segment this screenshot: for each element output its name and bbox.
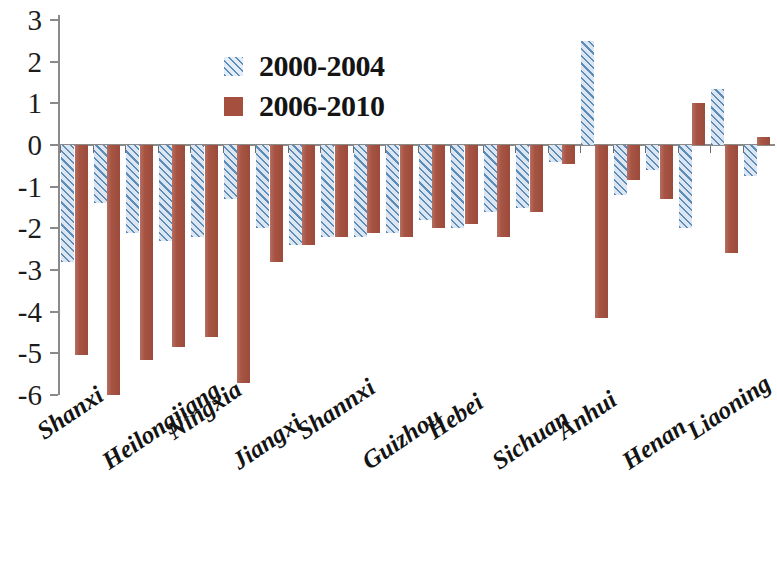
x-axis-tick-mark [255,146,256,153]
x-axis-tick-mark [158,146,159,153]
bar-group [580,15,613,395]
x-axis-tick-mark [320,146,321,153]
bar-group [548,15,581,395]
x-axis-tick-mark [613,146,614,153]
y-axis-tick-label: -4 [2,297,42,326]
y-axis-tick-mark [50,352,58,354]
x-axis-tick-mark [483,146,484,153]
bar-2000-2004-19[interactable] [679,145,692,228]
bar-2000-2004-2[interactable] [126,145,139,233]
legend-item-2006-2010: 2006-2010 [224,86,385,126]
y-axis-tick-mark [50,61,58,63]
y-axis-tick-labels: 3210-1-2-3-4-5-6 [0,0,42,574]
y-axis-tick-label: -5 [2,339,42,368]
legend-label-2006-2010: 2006-2010 [259,89,385,123]
y-axis-tick-label: -6 [2,381,42,410]
bar-group [93,15,126,395]
chart-legend: 2000-2004 2006-2010 [224,46,385,126]
x-axis-tick-mark [125,146,126,153]
bar-group [678,15,711,395]
bar-2006-2010-5[interactable] [237,145,250,383]
bar-2006-2010-1[interactable] [107,145,120,395]
bar-group [158,15,191,395]
y-axis-tick-label: -2 [2,214,42,243]
bar-2000-2004-1[interactable] [94,145,107,203]
x-axis-tick-mark [418,146,419,153]
x-axis-tick-mark [60,146,61,153]
bar-group [125,15,158,395]
y-axis-tick-label: 2 [2,47,42,76]
bar-2006-2010-20[interactable] [725,145,738,253]
bar-group [515,15,548,395]
bar-2006-2010-9[interactable] [367,145,380,233]
bar-2006-2010-17[interactable] [627,145,640,180]
bar-2000-2004-11[interactable] [419,145,432,220]
bar-group [710,15,743,395]
bar-2000-2004-10[interactable] [386,145,399,233]
y-axis-tick-mark [50,227,58,229]
y-axis-tick-mark [50,269,58,271]
bar-2000-2004-15[interactable] [549,145,562,162]
bar-2006-2010-15[interactable] [562,145,575,164]
bar-2000-2004-4[interactable] [191,145,204,237]
legend-swatch-blue-hatch-icon [224,57,243,76]
bar-2000-2004-6[interactable] [256,145,269,228]
x-axis-tick-mark [450,146,451,153]
y-axis-tick-mark [50,394,58,396]
x-axis-tick-mark [548,146,549,153]
plot-area [60,15,775,395]
y-axis-tick-mark [50,19,58,21]
bar-2006-2010-4[interactable] [205,145,218,337]
bar-2000-2004-17[interactable] [614,145,627,195]
y-axis-tick-label: -1 [2,172,42,201]
bar-2006-2010-3[interactable] [172,145,185,347]
y-axis-tick-label: 3 [2,6,42,35]
bar-2000-2004-0[interactable] [61,145,74,262]
y-axis-tick-mark [50,311,58,313]
bar-group [645,15,678,395]
bar-2006-2010-12[interactable] [465,145,478,224]
x-axis-label-hebei: Hebei [422,388,488,445]
y-axis-tick-mark [50,144,58,146]
bar-2006-2010-7[interactable] [302,145,315,245]
bar-2000-2004-14[interactable] [516,145,529,208]
x-axis-label-henan: Henan [617,412,691,475]
bar-2000-2004-18[interactable] [646,145,659,170]
y-axis-tick-label: 0 [2,131,42,160]
x-axis-tick-mark [710,146,711,153]
x-axis-tick-mark [580,146,581,153]
bar-2006-2010-2[interactable] [140,145,153,360]
bar-2000-2004-21[interactable] [744,145,757,176]
y-axis-tick-mark [50,102,58,104]
bar-group [385,15,418,395]
bar-2000-2004-12[interactable] [451,145,464,228]
bar-2006-2010-14[interactable] [530,145,543,212]
bar-2000-2004-8[interactable] [321,145,334,237]
bar-group [483,15,516,395]
bar-2006-2010-6[interactable] [270,145,283,262]
x-axis-tick-mark [190,146,191,153]
y-axis-tick-mark [50,186,58,188]
bar-2006-2010-19[interactable] [692,103,705,145]
bar-group [418,15,451,395]
bar-group [190,15,223,395]
bar-2006-2010-13[interactable] [497,145,510,237]
bar-2000-2004-20[interactable] [711,89,724,145]
bar-chart: 3210-1-2-3-4-5-6 2000-2004 2006-2010 Sha… [0,0,777,574]
bar-2006-2010-10[interactable] [400,145,413,237]
bar-2000-2004-5[interactable] [224,145,237,199]
bar-2000-2004-13[interactable] [484,145,497,212]
bar-2006-2010-21[interactable] [757,137,770,145]
bar-2000-2004-7[interactable] [289,145,302,245]
bar-2000-2004-16[interactable] [581,41,594,145]
bar-2000-2004-3[interactable] [159,145,172,241]
bar-2006-2010-18[interactable] [660,145,673,199]
bar-2006-2010-8[interactable] [335,145,348,237]
bar-2006-2010-11[interactable] [432,145,445,228]
bar-2006-2010-0[interactable] [75,145,88,355]
bar-2006-2010-16[interactable] [595,145,608,318]
x-axis-tick-mark [223,146,224,153]
x-axis-tick-mark [743,146,744,153]
legend-swatch-brown-solid-icon [224,97,243,116]
bar-2000-2004-9[interactable] [354,145,367,237]
